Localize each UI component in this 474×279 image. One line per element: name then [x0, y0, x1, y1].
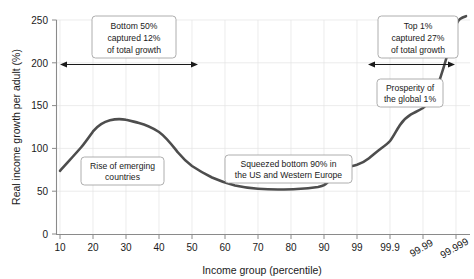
- callout-line: Rise of emerging: [90, 161, 155, 171]
- callout-line: of total growth: [391, 45, 445, 55]
- x-tick-labels: 10 20 30 40 50 60 70 80 90 99 99.9 99.99…: [54, 235, 470, 260]
- callout-line: Squeezed bottom 90% in: [240, 159, 336, 169]
- x-tick-label: 99.99: [408, 237, 436, 259]
- x-tick-label: 99: [351, 242, 363, 253]
- x-tick-label: 99.9: [380, 242, 400, 253]
- x-tick-label: 60: [219, 242, 231, 253]
- bottom-50-callout: Bottom 50% captured 12% of total growth: [92, 16, 176, 58]
- callout-line: the global 1%: [384, 94, 436, 104]
- x-tick-label: 50: [186, 242, 198, 253]
- squeezed-bottom-callout: Squeezed bottom 90% in the US and Wester…: [225, 155, 352, 183]
- top-1-callout: Top 1% captured 27% of total growth: [378, 16, 458, 58]
- callout-line: Prosperity of: [386, 83, 435, 93]
- prosperity-callout: Prosperity of the global 1%: [377, 79, 443, 107]
- x-tick-label: 99.999: [438, 235, 470, 260]
- y-tick-label: 50: [37, 186, 49, 197]
- x-tick-label: 20: [87, 242, 99, 253]
- x-axis-title: Income group (percentile): [202, 264, 322, 276]
- x-tick-label: 90: [318, 242, 330, 253]
- callout-line: Bottom 50%: [111, 21, 158, 31]
- y-tick-labels: 0 50 100 150 200 250: [31, 15, 48, 240]
- y-axis-title: Real income growth per adult (%): [10, 49, 22, 205]
- y-tick-label: 150: [31, 100, 48, 111]
- x-tick-label: 10: [54, 242, 66, 253]
- rise-of-emerging-callout: Rise of emerging countries: [81, 157, 164, 185]
- y-tick-label: 0: [42, 229, 48, 240]
- income-growth-chart: 0 50 100 150 200 250 10 20 30 40 50 60 7…: [0, 0, 474, 279]
- y-tick-label: 250: [31, 15, 48, 26]
- callout-line: countries: [105, 172, 140, 182]
- y-tick-marks: [52, 20, 57, 234]
- x-tick-label: 30: [120, 242, 132, 253]
- callout-line: captured 12%: [107, 33, 160, 43]
- callout-line: captured 27%: [391, 33, 444, 43]
- y-tick-label: 200: [31, 58, 48, 69]
- callout-line: the US and Western Europe: [235, 170, 343, 180]
- y-tick-label: 100: [31, 143, 48, 154]
- chart-canvas: 0 50 100 150 200 250 10 20 30 40 50 60 7…: [0, 0, 474, 279]
- x-tick-label: 80: [285, 242, 297, 253]
- x-tick-marks: [60, 235, 456, 240]
- callout-line: of total growth: [107, 45, 161, 55]
- x-tick-label: 70: [252, 242, 264, 253]
- x-tick-label: 40: [153, 242, 165, 253]
- callout-line: Top 1%: [404, 21, 433, 31]
